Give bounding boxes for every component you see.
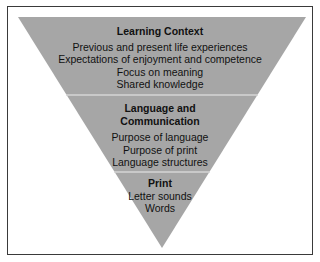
level-item: Expectations of enjoyment and competence: [0, 53, 320, 66]
level-learning-context: Learning Context Previous and present li…: [0, 25, 320, 91]
level-item: Words: [0, 202, 320, 215]
level-item: Letter sounds: [0, 190, 320, 203]
level-item: Language structures: [0, 156, 320, 169]
level-print: Print Letter sounds Words: [0, 177, 320, 215]
level-item: Purpose of print: [0, 144, 320, 157]
level-item: Purpose of language: [0, 131, 320, 144]
level-item: Focus on meaning: [0, 66, 320, 79]
level-language-communication: Language and Communication Purpose of la…: [0, 102, 320, 169]
level-item: Shared knowledge: [0, 78, 320, 91]
level-title: Learning Context: [0, 25, 320, 38]
level-title: Print: [0, 177, 320, 190]
level-title-line: Language and: [0, 102, 320, 115]
level-item: Previous and present life experiences: [0, 41, 320, 54]
level-title-line: Communication: [0, 115, 320, 128]
